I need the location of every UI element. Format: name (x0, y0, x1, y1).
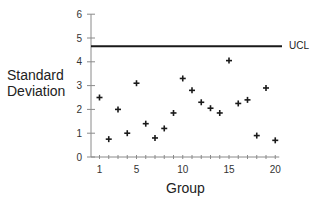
data-point (189, 87, 195, 93)
data-point (97, 95, 103, 101)
data-point (152, 135, 158, 141)
control-chart: 012345615101520 (0, 0, 317, 207)
data-point (254, 133, 260, 139)
data-point (263, 85, 269, 91)
x-tick-label: 5 (134, 164, 140, 175)
y-tick-label: 2 (76, 104, 82, 115)
data-point (245, 97, 251, 103)
y-tick-label: 1 (76, 128, 82, 139)
data-point (171, 110, 177, 116)
data-point (226, 58, 232, 64)
y-axis-label-line2: Deviation (7, 83, 65, 99)
data-point (124, 130, 130, 136)
x-tick-label: 15 (223, 164, 235, 175)
data-point (115, 106, 121, 112)
y-tick-label: 3 (76, 80, 82, 91)
y-tick-label: 5 (76, 33, 82, 44)
data-point (143, 121, 149, 127)
data-points (97, 58, 279, 144)
data-point (161, 125, 167, 131)
x-tick-label: 1 (97, 164, 103, 175)
x-axis-label: Group (166, 180, 205, 196)
data-point (217, 110, 223, 116)
data-point (198, 99, 204, 105)
x-tick-label: 20 (270, 164, 282, 175)
y-tick-label: 4 (76, 56, 82, 67)
y-tick-label: 6 (76, 9, 82, 20)
x-tick-label: 10 (177, 164, 189, 175)
data-point (272, 137, 278, 143)
ucl-label: UCL (289, 40, 309, 51)
data-point (235, 100, 241, 106)
axes: 012345615101520 (76, 9, 281, 175)
data-point (106, 136, 112, 142)
data-point (208, 105, 214, 111)
data-point (180, 75, 186, 81)
y-axis-label-line1: Standard (7, 67, 64, 83)
data-point (134, 80, 140, 86)
y-tick-label: 0 (76, 152, 82, 163)
